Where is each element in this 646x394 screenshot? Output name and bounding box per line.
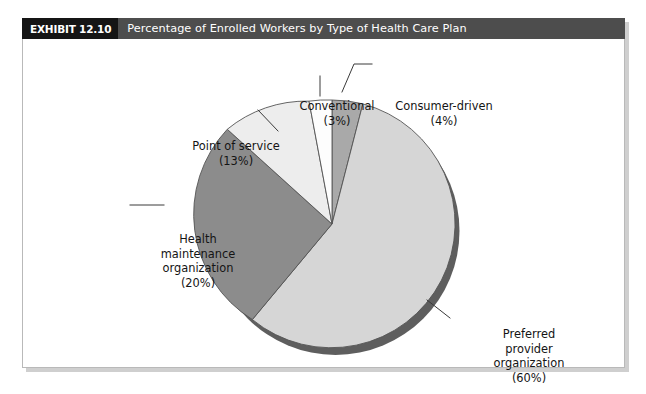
pie-label-ppo-line3: organization (465, 356, 593, 371)
pie-label-conventional: Conventional (3%) (281, 99, 393, 128)
pie-label-point-of-service: Point of service (13%) (172, 139, 300, 168)
pie-label-consumer-driven: Consumer-driven (4%) (382, 99, 506, 128)
pie-label-hmo-line1: Health (134, 232, 262, 247)
pie-label-hmo-line3: organization (134, 261, 262, 276)
pie-label-ppo-line2: provider (465, 342, 593, 357)
pie-slices (194, 100, 455, 348)
pie-label-ppo: Preferred provider organization (60%) (465, 327, 593, 385)
pie-label-consumer-driven-value: (4%) (382, 114, 506, 129)
pie-label-consumer-driven-name: Consumer-driven (382, 99, 506, 114)
exhibit-header-bar: EXHIBIT 12.10 Percentage of Enrolled Wor… (22, 18, 625, 39)
pie-label-ppo-line1: Preferred (465, 327, 593, 342)
pie-label-conventional-value: (3%) (281, 114, 393, 129)
pie-chart-area: Conventional (3%) Consumer-driven (4%) P… (22, 39, 625, 368)
pie-label-hmo-line2: maintenance (134, 247, 262, 262)
pie-label-point-of-service-name: Point of service (172, 139, 300, 154)
pie-label-point-of-service-value: (13%) (172, 154, 300, 169)
pie-label-ppo-value: (60%) (465, 371, 593, 386)
pie-label-hmo: Health maintenance organization (20%) (134, 232, 262, 290)
pie-label-hmo-value: (20%) (134, 276, 262, 291)
exhibit-title: Percentage of Enrolled Workers by Type o… (118, 22, 466, 35)
leader-line-consumer-driven (342, 64, 372, 92)
pie-chart-svg (22, 39, 625, 368)
pie-label-conventional-name: Conventional (281, 99, 393, 114)
exhibit-number-tag: EXHIBIT 12.10 (22, 18, 118, 39)
